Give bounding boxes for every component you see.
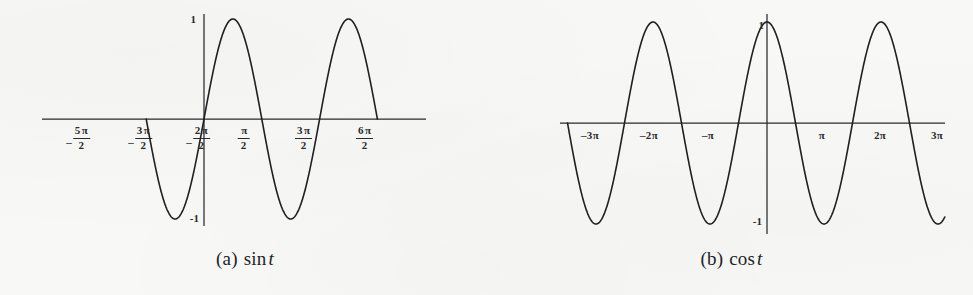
x-tick-label-0: – 5π 2 xyxy=(66,125,90,151)
tick-numerator: 6π xyxy=(356,125,373,139)
caption-label: (b) xyxy=(700,248,723,269)
y-axis-label-top: 1 xyxy=(191,14,197,25)
y-axis-label-top: 1 xyxy=(759,20,765,31)
chart-panel-sin: 1 -1 – 5π 2 – 3π 2 – xyxy=(0,0,490,295)
tick-denominator: 2 xyxy=(301,139,307,152)
caption-sin: (a)sint xyxy=(0,248,490,270)
tick-denominator: 2 xyxy=(199,139,205,152)
x-tick-label-1: –2π xyxy=(640,130,658,141)
chart-panel-cos: 1 -1 –3π –2π –π π 2π 3π (b)cost xyxy=(490,0,973,295)
sin-plot-svg xyxy=(0,0,490,240)
tick-numerator: π xyxy=(238,125,250,139)
y-axis-label-bottom: -1 xyxy=(753,216,762,227)
tick-numerator: 5π xyxy=(73,125,90,139)
tick-denominator: 2 xyxy=(241,139,247,152)
tick-sign: – xyxy=(128,137,134,148)
caption-function: cos xyxy=(729,248,755,269)
tick-numerator: 3π xyxy=(295,125,312,139)
caption-label: (a) xyxy=(216,248,238,269)
x-tick-label-2: –π xyxy=(702,130,714,141)
x-tick-label-4: 3π 2 xyxy=(294,125,312,151)
caption-cos: (b)cost xyxy=(490,248,973,270)
x-tick-label-4: 2π xyxy=(874,130,886,141)
y-axis-label-bottom: -1 xyxy=(190,213,199,224)
x-tick-label-2: – 2π 2 xyxy=(186,125,210,151)
x-tick-label-0: –3π xyxy=(581,130,599,141)
tick-sign: – xyxy=(186,137,192,148)
x-tick-label-5: 3π xyxy=(931,130,943,141)
tick-numerator: 2π xyxy=(193,125,210,139)
tick-numerator: 3π xyxy=(135,125,152,139)
tick-sign: – xyxy=(66,137,72,148)
caption-variable: t xyxy=(757,248,762,269)
caption-variable: t xyxy=(268,248,273,269)
x-tick-label-3: π xyxy=(819,130,825,141)
x-tick-label-5: 6π 2 xyxy=(355,125,373,151)
x-tick-label-3: π 2 xyxy=(237,125,250,151)
tick-denominator: 2 xyxy=(79,139,85,152)
tick-denominator: 2 xyxy=(141,139,147,152)
caption-function: sin xyxy=(244,248,267,269)
figure-sheet: 1 -1 – 5π 2 – 3π 2 – xyxy=(0,0,973,295)
x-tick-label-1: – 3π 2 xyxy=(128,125,152,151)
tick-denominator: 2 xyxy=(362,139,368,152)
cos-plot-svg xyxy=(490,0,973,240)
